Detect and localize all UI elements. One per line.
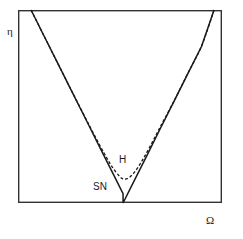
x-axis-label: Ω: [206, 215, 214, 226]
figure-background: [0, 0, 243, 239]
hopf-label: H: [119, 155, 126, 165]
saddle-node-label: SN: [93, 182, 107, 192]
y-axis-label: η: [7, 26, 13, 37]
bifurcation-diagram-figure: η Ω H SN: [0, 0, 243, 239]
plot-canvas: [0, 0, 243, 239]
